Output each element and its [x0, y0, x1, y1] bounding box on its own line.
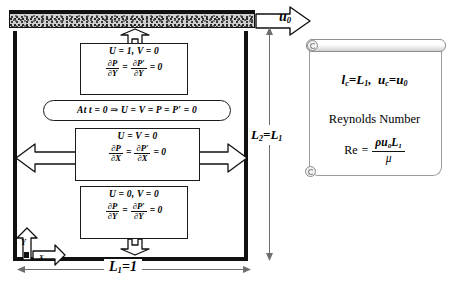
- bc-top-fraction-row: ∂P ∂Y = ∂P′ ∂Y = 0: [81, 59, 187, 78]
- bc-side-frac-right: ∂P′ ∂X: [134, 144, 150, 163]
- bc-bottom-line1: U = 0, V = 0: [81, 190, 187, 200]
- cavity-width-label: L1=1: [104, 259, 142, 275]
- bc-bottom-frac-right: ∂P′ ∂Y: [131, 202, 147, 221]
- characteristic-scales-label: lc=L1, uc=u0: [309, 72, 440, 88]
- bc-box-top-wall: U = 1, V = 0 ∂P ∂Y = ∂P′ ∂Y = 0: [80, 43, 188, 95]
- moving-lid: [9, 13, 255, 28]
- width-dim-right-arrowhead: [240, 264, 252, 276]
- bc-top-frac-left: ∂P ∂Y: [106, 59, 120, 78]
- bc-top-frac-right: ∂P′ ∂Y: [131, 59, 147, 78]
- width-dim-left-arrowhead: [16, 264, 28, 276]
- right-wall-pointer-arrow: [196, 143, 248, 173]
- height-dim-bottom-arrowhead: [264, 250, 276, 262]
- bc-bottom-equals: =: [122, 206, 127, 216]
- bc-box-side-walls: U = V = 0 ∂P ∂X = ∂P′ ∂X = 0: [75, 128, 200, 181]
- bc-side-equals: =: [126, 148, 131, 158]
- bc-top-equals: =: [122, 63, 127, 73]
- reynolds-fraction: ρu0L1 μ: [372, 136, 405, 165]
- reynolds-formula: Re = ρu0L1 μ: [309, 136, 440, 165]
- y-axis-label: Y: [21, 238, 26, 247]
- scroll-top-roll: [306, 39, 446, 52]
- reynolds-numerator: ρu0L1: [372, 136, 405, 150]
- scroll-curl-top-left-icon: [307, 40, 318, 51]
- x-axis-label: X: [39, 253, 44, 261]
- bc-side-fraction-row: ∂P ∂X = ∂P′ ∂X = 0: [76, 144, 199, 163]
- x-axis-arrow: [32, 244, 66, 266]
- bottom-bc-pointer-arrow: [118, 238, 152, 256]
- left-wall-pointer-arrow: [15, 143, 77, 173]
- cavity-height-label: L2=L1: [251, 125, 282, 145]
- bc-initial-text: At t = 0 ⇒ U = V = P = P′ = 0: [77, 106, 197, 116]
- bc-side-line1: U = V = 0: [76, 132, 199, 142]
- bc-box-bottom-wall: U = 0, V = 0 ∂P ∂Y = ∂P′ ∂Y = 0: [80, 186, 188, 239]
- reynolds-symbol: Re: [344, 143, 357, 158]
- origin-marker: [24, 252, 29, 258]
- reynolds-number-title: Reynolds Number: [309, 112, 440, 127]
- scroll-curl-bottom-left-icon: [305, 166, 316, 177]
- diagram-canvas: u0 U = 1, V = 0 ∂P ∂Y = ∂P′ ∂Y = 0 At t …: [0, 0, 450, 294]
- reynolds-equals: =: [362, 143, 369, 158]
- bc-bottom-frac-left: ∂P ∂Y: [106, 202, 120, 221]
- bc-bottom-fraction-row: ∂P ∂Y = ∂P′ ∂Y = 0: [81, 202, 187, 221]
- bc-bottom-tail: = 0: [150, 206, 163, 216]
- bc-top-line1: U = 1, V = 0: [81, 47, 187, 57]
- lid-velocity-label: u0: [279, 9, 291, 25]
- bc-side-frac-left: ∂P ∂X: [109, 144, 123, 163]
- bc-top-tail: = 0: [150, 63, 163, 73]
- height-dim-top-arrowhead: [264, 26, 276, 38]
- bc-box-initial-condition: At t = 0 ⇒ U = V = P = P′ = 0: [43, 100, 231, 121]
- bc-side-tail: = 0: [153, 148, 166, 158]
- reynolds-denominator: μ: [372, 151, 405, 164]
